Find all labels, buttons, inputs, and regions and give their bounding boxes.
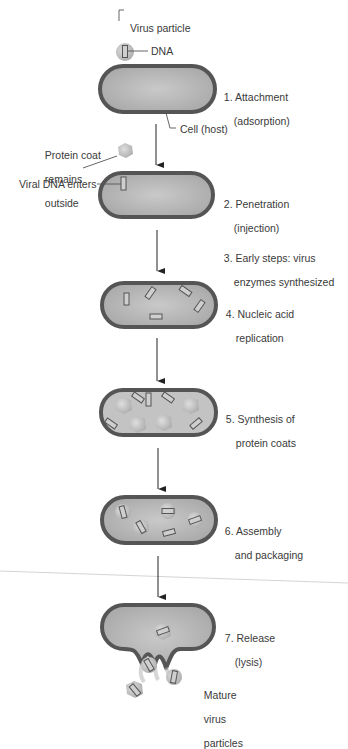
step-title: Nucleic acid bbox=[238, 308, 295, 320]
label-mature-line-3: particles bbox=[204, 737, 243, 749]
host-cell-step-7-lysing bbox=[102, 605, 214, 682]
step-subtitle: (adsorption) bbox=[224, 115, 290, 127]
label-mature-line-1: Mature bbox=[204, 689, 237, 701]
host-cell-step-1 bbox=[100, 66, 215, 112]
step-title: Attachment bbox=[235, 91, 288, 103]
step-subtitle: (injection) bbox=[224, 222, 280, 234]
host-cell-step-2 bbox=[100, 173, 213, 217]
mature-virus-particles bbox=[126, 657, 182, 698]
host-cell-step-6 bbox=[102, 497, 216, 543]
step-1-label: 1. Attachment (adsorption) bbox=[218, 79, 290, 127]
label-protein-coat-line-1: Protein coat bbox=[45, 149, 101, 161]
step-title: Early steps: virus bbox=[236, 252, 316, 264]
step-number: 2. bbox=[224, 198, 233, 210]
step-3-label: 3. Early steps: virus enzymes synthesize… bbox=[218, 240, 334, 288]
label-protein-coat-line-3: outside bbox=[45, 197, 79, 209]
virus-particle-icon bbox=[116, 10, 148, 61]
step-number: 1. bbox=[224, 91, 233, 103]
label-mature-line-2: virus bbox=[204, 713, 226, 725]
step-5-label: 5. Synthesis of protein coats bbox=[220, 401, 296, 449]
step-7-label: 7. Release (lysis) bbox=[219, 620, 275, 668]
step-title: Penetration bbox=[236, 198, 290, 210]
step-number: 3. bbox=[224, 252, 233, 264]
step-4-label: 4. Nucleic acid replication bbox=[220, 296, 294, 344]
label-protein-coat: Protein coat remains outside bbox=[39, 137, 101, 209]
step-subtitle: and packaging bbox=[225, 549, 303, 561]
scan-artifact-line bbox=[0, 571, 348, 583]
label-viral-dna-enters: Viral DNA enters bbox=[19, 178, 96, 190]
step-subtitle: (lysis) bbox=[225, 656, 262, 668]
step-title: Release bbox=[237, 632, 276, 644]
step-6-label: 6. Assembly and packaging bbox=[219, 513, 303, 561]
label-dna: DNA bbox=[151, 45, 173, 57]
step-number: 4. bbox=[226, 308, 235, 320]
step-title: Assembly bbox=[236, 525, 282, 537]
label-cell-host: Cell (host) bbox=[180, 123, 228, 135]
step-number: 5. bbox=[226, 413, 235, 425]
step-subtitle: protein coats bbox=[226, 437, 296, 449]
step-title: Synthesis of bbox=[238, 413, 295, 425]
host-cell-step-4 bbox=[102, 283, 216, 327]
step-2-label: 2. Penetration (injection) bbox=[218, 186, 289, 234]
step-number: 7. bbox=[225, 632, 234, 644]
host-cell-step-5 bbox=[101, 390, 216, 435]
step-number: 6. bbox=[225, 525, 234, 537]
empty-protein-coat-icon bbox=[118, 143, 133, 158]
label-virus-particle: Virus particle bbox=[130, 22, 191, 34]
label-mature-virus-particles: Mature virus particles bbox=[198, 677, 243, 749]
step-subtitle: enzymes synthesized bbox=[224, 276, 334, 288]
cell-host-leader bbox=[166, 113, 176, 128]
step-subtitle: replication bbox=[226, 332, 284, 344]
